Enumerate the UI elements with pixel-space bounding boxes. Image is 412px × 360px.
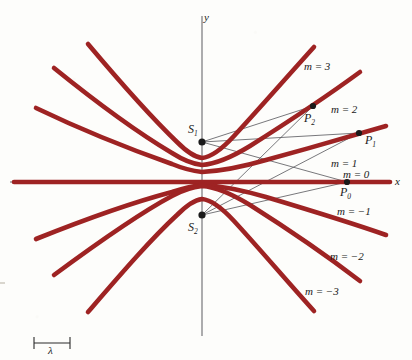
fringe-label-m3: m = 3: [304, 61, 330, 72]
interference-hyperbolae-figure: y x S1 S2 P0 P1 P2 m = 3 m = 2 m = 1 m =…: [0, 0, 412, 360]
figure-canvas: [0, 0, 412, 360]
source-label-s2: S2: [188, 221, 198, 236]
point-label-p1: P1: [365, 134, 376, 149]
source-marker-s2: [198, 211, 205, 218]
source-label-s1: S1: [188, 123, 198, 138]
point-marker-p2: [310, 103, 316, 109]
fringe-label-m-minus-1: m = −1: [337, 206, 371, 217]
x-axis-label: x: [395, 176, 400, 187]
fringe-label-m2: m = 2: [331, 104, 357, 115]
scale-bar-label: λ: [48, 345, 53, 356]
source-marker-s1: [198, 138, 205, 145]
point-label-p0: P0: [340, 186, 351, 201]
fringe-label-m-minus-3: m = −3: [305, 286, 339, 297]
y-axis-label: y: [204, 12, 209, 23]
point-marker-p1: [356, 130, 362, 136]
point-label-p2: P2: [304, 112, 315, 127]
fringe-label-m0: m = 0: [343, 169, 369, 180]
fringe-label-m-minus-2: m = −2: [330, 251, 364, 262]
fringe-curve-mm1: [36, 185, 386, 239]
